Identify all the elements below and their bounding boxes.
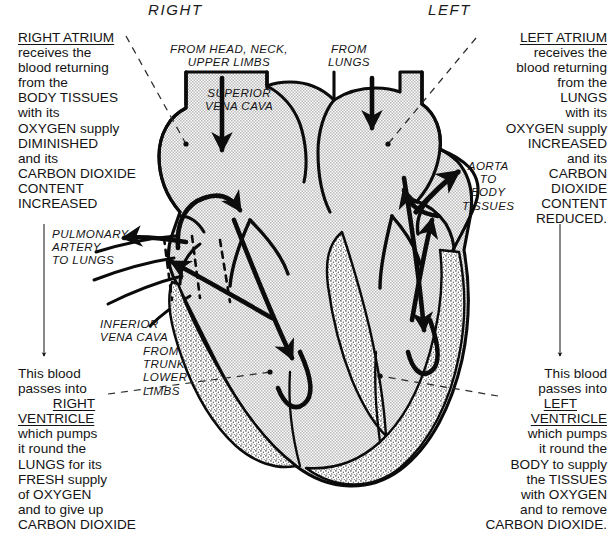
lv-line-7: CARBON DIOXIDE. bbox=[461, 517, 607, 532]
right-atrium-line-3: from the bbox=[18, 75, 153, 90]
leader-dots bbox=[183, 141, 390, 378]
pulmonary-artery-trunk bbox=[180, 216, 204, 232]
rv-line-3: LUNGS for its bbox=[18, 457, 168, 472]
label-inferior-vena-cava: INFERIOR VENA CAVA bbox=[100, 317, 168, 343]
left-atrium-line-3: from the bbox=[464, 75, 607, 90]
right-atrium-line-7: DIMINISHED bbox=[18, 136, 153, 151]
arrow-ra-swirl bbox=[178, 196, 240, 248]
right-atrium-line-11: INCREASED bbox=[18, 196, 153, 211]
from-head-neck-line-2: UPPER LIMBS bbox=[170, 55, 288, 68]
lv-line-3: BODY to supply bbox=[461, 457, 607, 472]
rv-heading-1: RIGHT bbox=[18, 396, 168, 411]
vessel-plane-dashes bbox=[164, 236, 230, 302]
label-from-trunk: FROM TRUNK, LOWER LIMBS bbox=[143, 344, 189, 397]
left-ventricle-wall bbox=[306, 250, 464, 485]
lv-line-6: and to remove bbox=[461, 502, 607, 517]
rv-line-7: CARBON DIOXIDE bbox=[18, 517, 168, 532]
label-pulmonary-artery: PULMONARY ARTERY TO LUNGS bbox=[52, 227, 129, 267]
left-atrium-line-7: INCREASED bbox=[464, 136, 607, 151]
lv-line-2: it round the bbox=[461, 441, 607, 456]
arrow-rv-to-pulmonary-artery bbox=[172, 262, 272, 318]
svc-line-2: VENA CAVA bbox=[205, 99, 273, 112]
rv-line-1: which pumps bbox=[18, 426, 168, 441]
from-trunk-line-1: FROM bbox=[143, 344, 189, 357]
right-atrium-line-10: CONTENT bbox=[18, 181, 153, 196]
aorta-line-4: TISSUES bbox=[462, 199, 514, 212]
header-right: RIGHT bbox=[148, 1, 203, 18]
from-trunk-line-3: LOWER bbox=[143, 370, 189, 383]
lv-lead-in-1: This blood bbox=[461, 366, 607, 381]
from-lungs-line-2: LUNGS bbox=[328, 55, 370, 68]
right-atrium-line-6: OXYGEN supply bbox=[18, 121, 153, 136]
right-atrium-line-4: BODY TISSUES bbox=[18, 90, 153, 105]
left-atrium-heading: LEFT ATRIUM bbox=[464, 30, 607, 45]
arrow-rv-apex-hook bbox=[278, 352, 310, 407]
from-lungs-line-1: FROM bbox=[328, 42, 370, 55]
label-superior-vena-cava: SUPERIOR VENA CAVA bbox=[205, 86, 273, 112]
left-atrium-outline bbox=[318, 72, 440, 212]
heart-circulation-diagram: RIGHT LEFT RIGHT ATRIUM receives the blo… bbox=[0, 0, 613, 553]
pulmonary-vein-inlet bbox=[334, 72, 422, 104]
right-atrium-line-2: blood returning bbox=[18, 60, 153, 75]
heart-silhouette bbox=[159, 72, 472, 486]
arrow-ra-to-rv bbox=[234, 220, 292, 358]
left-atrium-line-12: REDUCED. bbox=[464, 211, 607, 226]
arrow-lv-to-aorta bbox=[412, 220, 432, 320]
ivc-line-1: INFERIOR bbox=[100, 317, 168, 330]
pulmonary-artery-line-1: PULMONARY bbox=[52, 227, 129, 240]
ivc-line-2: VENA CAVA bbox=[100, 330, 168, 343]
pulmonary-artery-line-3: TO LUNGS bbox=[52, 253, 129, 266]
lv-line-1: which pumps bbox=[461, 426, 607, 441]
rv-line-4: FRESH supply bbox=[18, 472, 168, 487]
lv-heading-1: LEFT bbox=[461, 396, 607, 411]
left-atrium-line-2: blood returning bbox=[464, 60, 607, 75]
right-atrium-line-1: receives the bbox=[18, 45, 153, 60]
interventricular-septum bbox=[327, 232, 386, 436]
ventricular-trabeculae bbox=[289, 352, 380, 466]
aorta-line-2: TO bbox=[462, 172, 514, 185]
left-atrium-line-1: receives the bbox=[464, 45, 607, 60]
right-atrium-line-5: with its bbox=[18, 105, 153, 120]
arrow-lv-apex-hook bbox=[408, 320, 438, 374]
arrow-aorta-outflow bbox=[416, 172, 458, 212]
right-atrium-text-block: RIGHT ATRIUM receives the blood returnin… bbox=[18, 30, 153, 211]
lv-line-5: with OXYGEN bbox=[461, 487, 607, 502]
arrow-pulmonary-artery-exit bbox=[124, 237, 186, 242]
left-ventricle-text-block: This blood passes into LEFT VENTRICLE wh… bbox=[461, 366, 607, 532]
from-trunk-line-4: LIMBS bbox=[143, 384, 189, 397]
header-left: LEFT bbox=[428, 1, 471, 18]
pulmonary-artery-line-2: ARTERY bbox=[52, 240, 129, 253]
right-atrium-heading: RIGHT ATRIUM bbox=[18, 30, 153, 45]
from-head-neck-line-1: FROM HEAD, NECK, bbox=[170, 42, 288, 55]
svc-line-1: SUPERIOR bbox=[205, 86, 273, 99]
rv-line-2: it round the bbox=[18, 441, 168, 456]
arrow-la-to-lv bbox=[404, 178, 424, 330]
left-atrium-line-5: with its bbox=[464, 105, 607, 120]
right-atrium-line-8: and its bbox=[18, 151, 153, 166]
lv-lead-in-2: passes into bbox=[461, 381, 607, 396]
rv-line-6: and to give up bbox=[18, 502, 168, 517]
lv-heading-2: VENTRICLE bbox=[461, 411, 607, 426]
label-from-head-neck: FROM HEAD, NECK, UPPER LIMBS bbox=[170, 42, 288, 68]
arrow-la-swirl bbox=[404, 190, 438, 216]
left-atrium-line-6: OXYGEN supply bbox=[464, 121, 607, 136]
from-trunk-line-2: TRUNK, bbox=[143, 357, 189, 370]
aorta-line-3: BODY bbox=[462, 185, 514, 198]
rv-heading-2: VENTRICLE bbox=[18, 411, 168, 426]
right-atrium-line-9: CARBON DIOXIDE bbox=[18, 166, 153, 181]
label-from-lungs: FROM LUNGS bbox=[328, 42, 370, 68]
leader-left-atrium bbox=[388, 38, 476, 144]
heart-valves bbox=[230, 200, 428, 288]
left-atrium-line-4: LUNGS bbox=[464, 90, 607, 105]
rv-line-5: of OXYGEN bbox=[18, 487, 168, 502]
aorta-line-1: AORTA bbox=[462, 159, 514, 172]
label-aorta: AORTA TO BODY TISSUES bbox=[462, 159, 514, 212]
lv-line-4: the TISSUES bbox=[461, 472, 607, 487]
